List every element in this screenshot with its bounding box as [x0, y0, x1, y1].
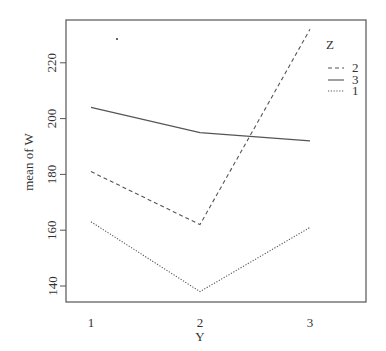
- x-tick-label: 3: [307, 315, 314, 330]
- series-line-z3: [91, 107, 310, 140]
- legend-title: Z: [326, 37, 334, 52]
- plot-frame: [66, 20, 366, 302]
- y-tick-label: 160: [45, 220, 60, 240]
- x-axis-label: Y: [195, 329, 205, 344]
- y-tick-label: 180: [45, 165, 60, 185]
- interaction-plot: 140160180200220123Ymean of WZ231: [0, 0, 386, 351]
- x-tick-label: 2: [197, 315, 204, 330]
- y-axis-label: mean of W: [21, 133, 36, 191]
- chart-canvas: 140160180200220123Ymean of WZ231: [0, 0, 386, 351]
- series-line-z2: [91, 29, 310, 224]
- y-tick-label: 200: [45, 109, 60, 129]
- x-tick-label: 1: [88, 315, 95, 330]
- y-tick-label: 140: [45, 276, 60, 296]
- legend-label: 1: [352, 83, 359, 98]
- stray-dot: [116, 38, 118, 40]
- y-tick-label: 220: [45, 53, 60, 73]
- series-line-z1: [91, 222, 310, 292]
